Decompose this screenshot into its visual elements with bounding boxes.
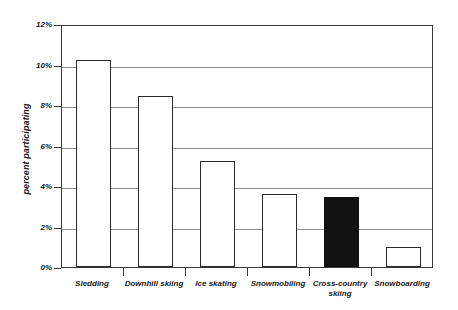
x-axis-tick-mark bbox=[371, 268, 372, 276]
x-axis-tick-mark bbox=[185, 268, 186, 276]
x-axis-tick-mark bbox=[247, 268, 248, 276]
x-axis-tick-mark bbox=[123, 268, 124, 276]
y-axis-tick-label: 6% bbox=[12, 142, 52, 151]
x-axis-tick-mark bbox=[309, 268, 310, 276]
x-axis-label-line: skiing bbox=[303, 289, 377, 299]
plot-area bbox=[61, 25, 433, 268]
y-axis-tick-mark bbox=[54, 268, 61, 269]
gridline bbox=[62, 229, 432, 230]
bar-ice-skating[interactable] bbox=[200, 161, 235, 267]
y-axis-tick-label: 4% bbox=[12, 182, 52, 191]
x-axis-label-snowboarding: Snowboarding bbox=[365, 279, 439, 289]
gridline bbox=[62, 107, 432, 108]
y-axis-tick-mark bbox=[54, 25, 61, 26]
y-axis-tick-mark bbox=[54, 66, 61, 67]
bar-downhill-skiing[interactable] bbox=[138, 96, 173, 267]
y-axis-tick-label: 10% bbox=[12, 61, 52, 70]
y-axis-tick-mark bbox=[54, 228, 61, 229]
bar-snowmobiling[interactable] bbox=[262, 194, 297, 267]
y-axis-tick-mark bbox=[54, 106, 61, 107]
gridline bbox=[62, 148, 432, 149]
x-axis-label-line: Snowboarding bbox=[365, 279, 439, 289]
bar-chart: percent participating 0%2%4%6%8%10%12%Sl… bbox=[0, 0, 458, 310]
y-axis-tick-label: 2% bbox=[12, 223, 52, 232]
y-axis-tick-label: 12% bbox=[12, 20, 52, 29]
bar-cross-country-skiing[interactable] bbox=[324, 197, 359, 267]
bar-sledding[interactable] bbox=[76, 60, 111, 267]
y-axis-tick-mark bbox=[54, 187, 61, 188]
y-axis-tick-mark bbox=[54, 147, 61, 148]
y-axis-tick-label: 8% bbox=[12, 101, 52, 110]
gridline bbox=[62, 67, 432, 68]
gridline bbox=[62, 188, 432, 189]
y-axis-tick-label: 0% bbox=[12, 263, 52, 272]
bar-snowboarding[interactable] bbox=[386, 247, 421, 267]
